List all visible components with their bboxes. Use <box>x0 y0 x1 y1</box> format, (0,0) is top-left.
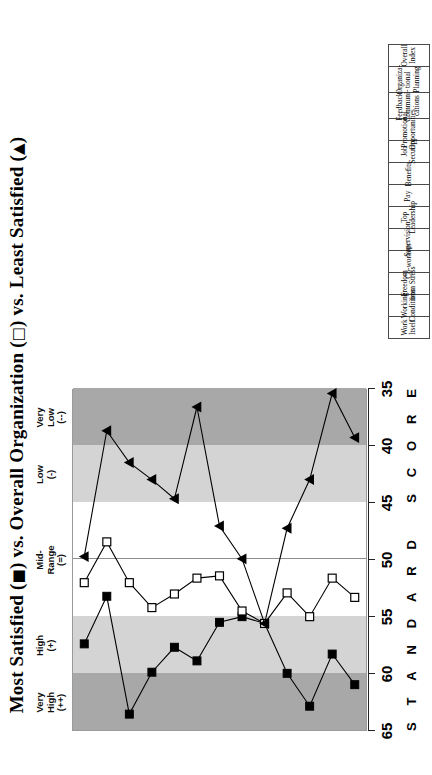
band-label-0: Very High (++) <box>35 692 67 713</box>
data-point <box>306 702 314 710</box>
data-point <box>80 640 88 648</box>
axis-title-letter: N <box>404 645 419 654</box>
least-satisfied-marker-glyph: ▲ <box>9 143 27 155</box>
axis-title-letter: D <box>404 619 419 628</box>
data-point <box>304 474 314 485</box>
axis-tick <box>368 559 375 560</box>
axis-title-letter: A <box>404 593 419 602</box>
band-label-4: Very Low (--) <box>35 407 67 427</box>
category-cell: Overall Index <box>388 44 430 66</box>
axis-tick <box>368 388 375 389</box>
series-overall-organization <box>80 538 358 628</box>
category-label: Working Conditions <box>401 289 418 321</box>
data-point <box>170 590 178 598</box>
chart-title-suffix: ) <box>6 137 27 144</box>
data-point <box>146 474 156 485</box>
axis-tick-label: 60 <box>378 666 395 683</box>
data-point <box>193 657 201 665</box>
chart-title: Most Satisfied (■) vs. Overall Organizat… <box>6 75 28 775</box>
category-label-table: Overall IndexOrganiza- tional PlanningFe… <box>388 44 430 339</box>
axis-tick <box>368 673 375 674</box>
series-least-satisfied <box>79 388 359 629</box>
axis-title-letter <box>404 520 419 524</box>
category-cell: Working Conditions <box>388 294 430 316</box>
data-point <box>283 589 291 597</box>
axis-title-letter: S <box>404 494 419 503</box>
data-point <box>148 668 156 676</box>
band-label-row: Very High (++)High (+)Mid- Range (=)Low … <box>31 0 71 775</box>
axis-tick <box>368 502 375 503</box>
axis-tick <box>368 445 375 446</box>
series-most-satisfied <box>80 592 358 718</box>
data-point <box>170 643 178 651</box>
axis-tick-label: 65 <box>378 723 395 740</box>
axis-title-letter: T <box>404 698 419 706</box>
data-point <box>237 553 247 564</box>
data-point <box>306 613 314 621</box>
data-point <box>349 432 359 443</box>
category-label: Pay <box>405 190 413 201</box>
data-point <box>148 604 156 612</box>
plot-area <box>72 389 367 731</box>
band-label-3: Low (-) <box>35 465 56 484</box>
chart-title-mid2: ) vs. Least Satisfied ( <box>6 155 27 327</box>
series-lines-layer <box>73 390 366 730</box>
most-satisfied-marker-glyph: ■ <box>9 569 27 583</box>
axis-tick-label: 50 <box>378 552 395 569</box>
data-point <box>351 593 359 601</box>
category-cell: Promotional Opportunities <box>388 118 430 140</box>
score-axis: 65605550454035 STANDARD SCORE <box>368 389 432 731</box>
data-point <box>103 592 111 600</box>
data-point <box>80 579 88 587</box>
data-point <box>124 457 134 468</box>
data-point <box>216 618 224 626</box>
axis-title-letter: O <box>404 441 419 451</box>
axis-title: STANDARD SCORE <box>404 389 419 731</box>
data-point <box>238 607 246 615</box>
category-label: Overall Index <box>401 44 418 66</box>
axis-title-letter: R <box>404 566 419 575</box>
category-label: Benefits <box>405 161 413 186</box>
axis-line <box>368 389 369 731</box>
chart-title-mid1: ) vs. Overall Organization ( <box>6 341 27 569</box>
chart-root: Most Satisfied (■) vs. Overall Organizat… <box>0 0 432 775</box>
category-label: Work Itself <box>401 319 418 335</box>
category-cell: Organiza- tional Planning <box>388 66 430 92</box>
data-point <box>216 572 224 580</box>
data-point <box>103 538 111 546</box>
data-point <box>283 669 291 677</box>
axis-tick <box>368 730 375 731</box>
axis-title-letter: R <box>404 415 419 424</box>
data-point <box>125 710 133 718</box>
category-cell: Benefits <box>388 162 430 184</box>
chart-stage: Most Satisfied (■) vs. Overall Organizat… <box>0 0 432 775</box>
axis-title-letter: S <box>404 722 419 731</box>
band-label-1: High (+) <box>35 635 56 656</box>
chart-title-prefix: Most Satisfied ( <box>6 583 27 713</box>
data-point <box>351 681 359 689</box>
axis-title-letter: C <box>404 468 419 477</box>
series-line <box>84 393 355 623</box>
category-label: Job Security <box>401 139 418 164</box>
overall-organization-marker-glyph: □ <box>9 327 27 341</box>
data-point <box>79 551 89 562</box>
category-cell: Job Security <box>388 140 430 162</box>
data-point <box>328 574 336 582</box>
axis-title-letter: D <box>404 540 419 549</box>
axis-tick <box>368 616 375 617</box>
axis-title-letter: E <box>404 389 419 398</box>
band-label-2: Mid- Range (=) <box>35 545 67 574</box>
data-point <box>125 579 133 587</box>
axis-title-letter: A <box>404 671 419 680</box>
category-cell: Work Itself <box>388 316 430 339</box>
data-point <box>193 574 201 582</box>
axis-tick-label: 45 <box>378 495 395 512</box>
axis-tick-label: 55 <box>378 609 395 626</box>
axis-tick-label: 35 <box>378 381 395 398</box>
axis-tick-label: 40 <box>378 438 395 455</box>
data-point <box>328 650 336 658</box>
